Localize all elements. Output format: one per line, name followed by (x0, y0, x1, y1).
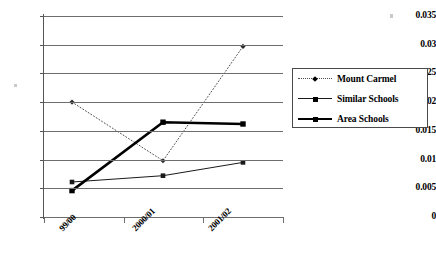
gridline (44, 188, 283, 189)
y-axis-tick-label: 0.03 (398, 40, 436, 50)
data-point-marker (240, 121, 245, 126)
plot-area (44, 16, 283, 217)
series-line (72, 46, 243, 160)
data-point-marker (161, 173, 166, 178)
legend-item-similar-schools[interactable]: Similar Schools (293, 89, 427, 109)
legend-marker-icon (313, 97, 318, 102)
gridline (44, 131, 283, 132)
gridline (44, 73, 283, 74)
data-point-marker (160, 120, 165, 125)
gridline (44, 45, 283, 46)
scan-speckle (14, 84, 17, 87)
legend-swatch-icon (293, 72, 337, 86)
y-axis-tick-label: 0.005 (398, 183, 436, 193)
y-axis-tick-label: 0.01 (398, 155, 436, 165)
data-point-marker (70, 180, 75, 185)
legend-swatch-icon (293, 92, 337, 106)
legend-swatch-icon (293, 112, 337, 126)
legend-item-label: Mount Carmel (337, 74, 396, 84)
legend: Mount CarmelSimilar SchoolsArea Schools (292, 68, 428, 128)
scan-speckle (390, 14, 393, 18)
x-axis-tick-mark (44, 218, 45, 223)
gridline (44, 217, 283, 218)
series-mount-carmel (69, 44, 245, 163)
gridline (44, 160, 283, 161)
legend-item-mount-carmel[interactable]: Mount Carmel (293, 69, 427, 89)
x-axis-tick-mark (283, 218, 284, 223)
x-axis-tick-mark (124, 218, 125, 223)
y-axis-tick-label: 0 (398, 212, 436, 222)
gridline (44, 16, 283, 17)
y-axis-tick-label: 0.035 (398, 11, 436, 21)
legend-item-label: Similar Schools (337, 94, 398, 104)
line-chart: 0.0350.030.0250.020.0150.010.0050 99/002… (0, 0, 436, 268)
x-axis-tick-mark (203, 218, 204, 223)
legend-item-area-schools[interactable]: Area Schools (293, 109, 427, 129)
gridline (44, 102, 283, 103)
series-layer (44, 16, 283, 217)
legend-marker-icon (313, 117, 318, 122)
legend-item-label: Area Schools (337, 114, 389, 124)
